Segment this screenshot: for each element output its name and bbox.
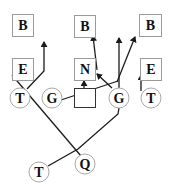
label-g-left: G [47,91,58,106]
football-play-diagram: B B B E N E T G G T T Q [0,0,173,190]
label-e-left: E [18,62,27,77]
circle-q: Q [75,154,95,174]
label-q: Q [80,157,91,172]
label-n-mid: N [80,62,90,77]
route-diagonal-to-q [12,75,81,156]
box-b-left: B [13,15,34,37]
circle-t-right: T [141,88,161,108]
label-t-bottom: T [34,165,44,180]
circle-t-left: T [10,88,30,108]
circle-t-bottom: T [29,162,49,182]
label-t-left: T [15,91,25,106]
box-b-mid: B [75,16,96,38]
box-n-mid: N [75,59,96,81]
label-t-right: T [146,91,156,106]
box-e-left: E [13,59,34,81]
label-e-right: E [146,62,155,77]
label-g-right: G [114,91,125,106]
circle-g-left: G [42,88,62,108]
box-e-right: E [141,59,162,81]
circle-g-right: G [109,88,129,108]
label-b-right: B [146,18,155,33]
label-b-left: B [18,18,27,33]
box-b-right: B [140,15,162,37]
label-b-mid: B [80,19,89,34]
center-square [75,89,96,108]
route-g-right-to-b-right [117,37,135,82]
